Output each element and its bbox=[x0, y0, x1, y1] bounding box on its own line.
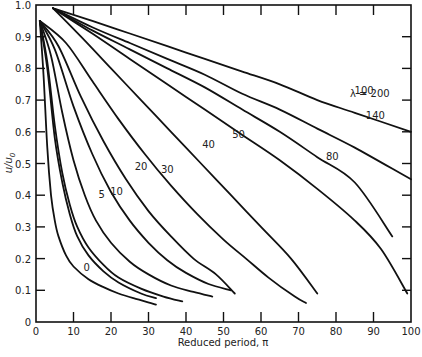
y-axis-title-sub: 0 bbox=[9, 152, 17, 157]
x-tick-label: 80 bbox=[330, 326, 343, 337]
x-tick-label: 60 bbox=[255, 326, 268, 337]
curve-label-10: 10 bbox=[110, 186, 123, 197]
curve-label-140: 140 bbox=[366, 110, 385, 121]
y-tick-label: 0.8 bbox=[15, 63, 31, 74]
curve-label-30: 30 bbox=[161, 164, 174, 175]
x-tick-label: 20 bbox=[105, 326, 118, 337]
x-tick-label: 40 bbox=[180, 326, 193, 337]
x-tick-label: 90 bbox=[367, 326, 380, 337]
x-tick-label: 70 bbox=[292, 326, 305, 337]
curve-lambda-20 bbox=[40, 21, 231, 290]
curve-label-0: 0 bbox=[83, 262, 89, 273]
curve-lambda-200 bbox=[53, 8, 411, 132]
x-tick-label: 30 bbox=[142, 326, 155, 337]
curve-lambda-30 bbox=[40, 21, 235, 294]
y-tick-label: 0 bbox=[25, 317, 31, 328]
curve-label-200: λ = 200 bbox=[350, 88, 390, 99]
y-axis-title-main: u/u bbox=[3, 157, 14, 173]
y-tick-label: 0.5 bbox=[15, 159, 31, 170]
y-tick-label: 0.7 bbox=[15, 95, 31, 106]
y-tick-label: 0.4 bbox=[15, 190, 31, 201]
y-tick-label: 0.9 bbox=[15, 32, 31, 43]
curve-lambda-2 bbox=[40, 21, 156, 298]
curve-lambda-80 bbox=[53, 8, 407, 293]
curve-labels: 05102030405080100140λ = 200 bbox=[83, 85, 389, 274]
y-tick-label: 0.6 bbox=[15, 127, 31, 138]
x-axis-title: Reduced period, π bbox=[178, 337, 269, 348]
x-tick-label: 10 bbox=[67, 326, 80, 337]
curve-label-5: 5 bbox=[98, 189, 104, 200]
plot-frame bbox=[36, 5, 411, 322]
chart-canvas: 010203040506070809010000.10.20.30.40.50.… bbox=[0, 0, 422, 357]
curve-label-20: 20 bbox=[135, 161, 148, 172]
x-tick-label: 0 bbox=[33, 326, 39, 337]
curve-lambda-40 bbox=[40, 21, 306, 303]
curve-label-40: 40 bbox=[202, 139, 215, 150]
y-tick-label: 0.2 bbox=[15, 254, 31, 265]
y-tick-label: 0.3 bbox=[15, 222, 31, 233]
y-tick-label: 1.0 bbox=[15, 0, 31, 11]
curves bbox=[40, 8, 411, 304]
curve-label-80: 80 bbox=[326, 151, 339, 162]
x-tick-label: 50 bbox=[217, 326, 230, 337]
y-tick-label: 0.1 bbox=[15, 285, 31, 296]
x-tick-label: 100 bbox=[401, 326, 420, 337]
curve-lambda-5 bbox=[40, 21, 183, 302]
curve-label-50: 50 bbox=[232, 129, 245, 140]
